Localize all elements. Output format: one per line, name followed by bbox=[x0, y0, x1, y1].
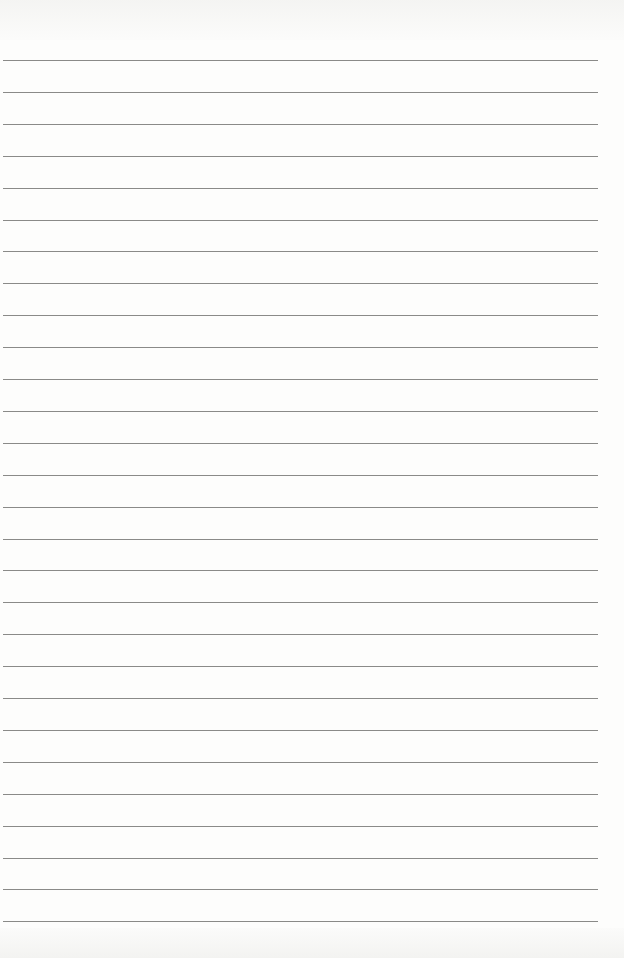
ruled-line bbox=[3, 762, 598, 763]
ruled-line bbox=[3, 507, 598, 508]
ruled-line bbox=[3, 634, 598, 635]
ruled-line bbox=[3, 379, 598, 380]
ruled-line bbox=[3, 443, 598, 444]
ruled-line bbox=[3, 251, 598, 252]
ruled-line bbox=[3, 698, 598, 699]
ruled-line bbox=[3, 60, 598, 61]
ruled-line bbox=[3, 889, 598, 890]
ruled-line bbox=[3, 411, 598, 412]
ruled-line bbox=[3, 315, 598, 316]
ruled-line bbox=[3, 602, 598, 603]
ruled-line bbox=[3, 794, 598, 795]
ruled-line bbox=[3, 539, 598, 540]
paper-bottom-shadow bbox=[0, 928, 624, 958]
ruled-line bbox=[3, 475, 598, 476]
ruled-line bbox=[3, 188, 598, 189]
ruled-line bbox=[3, 156, 598, 157]
ruled-line bbox=[3, 730, 598, 731]
ruled-line bbox=[3, 347, 598, 348]
ruled-line bbox=[3, 666, 598, 667]
paper-top-shadow bbox=[0, 0, 624, 40]
ruled-line bbox=[3, 570, 598, 571]
ruled-line bbox=[3, 92, 598, 93]
ruled-line bbox=[3, 283, 598, 284]
ruled-line bbox=[3, 124, 598, 125]
ruled-line bbox=[3, 826, 598, 827]
ruled-line bbox=[3, 220, 598, 221]
ruled-line bbox=[3, 921, 598, 922]
ruled-line bbox=[3, 858, 598, 859]
